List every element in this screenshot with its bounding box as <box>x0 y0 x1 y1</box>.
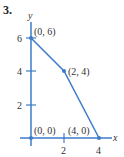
vertex-0-0 <box>29 136 33 140</box>
x-axis-label: x <box>112 132 118 143</box>
y-tick-label-2: 2 <box>17 100 22 111</box>
region-boundary <box>31 38 99 138</box>
x-tick-label-2: 2 <box>61 145 66 156</box>
vertex-4-0 <box>97 136 101 140</box>
x-tick-label-4: 4 <box>96 145 101 156</box>
vertex-0-6 <box>29 36 33 40</box>
vertex-2-4 <box>62 69 66 73</box>
point-label-2-4: (2, 4) <box>68 66 90 78</box>
y-axis-label: y <box>27 10 33 21</box>
point-label-0-0: (0, 0) <box>34 125 56 137</box>
point-label-0-6: (0, 6) <box>34 26 56 38</box>
y-tick-label-6: 6 <box>17 33 22 44</box>
point-label-4-0: (4, 0) <box>68 125 90 137</box>
feasible-region-diagram: y x 6 4 2 2 4 (0, 6) (2, 4) (0, 0) (4, 0… <box>0 0 124 157</box>
y-tick-label-4: 4 <box>17 66 22 77</box>
